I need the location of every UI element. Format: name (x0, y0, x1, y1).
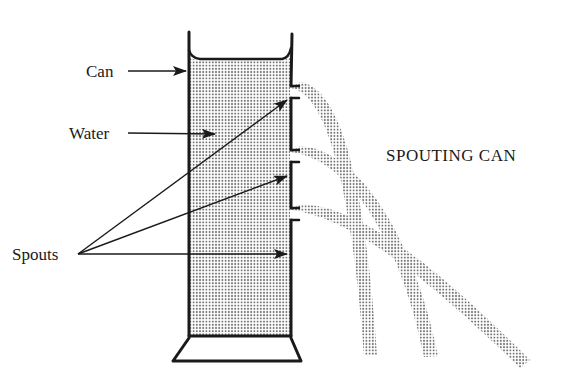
label-can: Can (86, 62, 114, 81)
water-streams (291, 82, 530, 368)
can-stand (173, 338, 301, 361)
water-surface (189, 48, 291, 59)
diagram-title: SPOUTING CAN (386, 146, 516, 165)
spouting-can-diagram: Can Water Spouts SPOUTING CAN (0, 0, 576, 387)
water-arrow (128, 133, 215, 134)
label-spouts: Spouts (12, 245, 58, 264)
label-water: Water (69, 124, 109, 143)
water-body (189, 56, 290, 335)
